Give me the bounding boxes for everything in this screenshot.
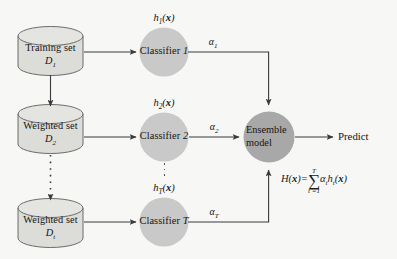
formula-rhs-term: αtht(x) (320, 173, 347, 184)
alpha-1-label: α1 (198, 37, 228, 50)
formula-lhs: H(x)= (281, 173, 308, 184)
dataset-label-weighted-set-2: Weighted set (17, 121, 84, 132)
dataset-symbol-training-set: D1 (18, 56, 83, 69)
classifier-t-label: Classifier T (124, 216, 204, 227)
ensemble-model-line2: model (246, 138, 296, 149)
alpha-t-label: αT (199, 207, 229, 220)
classifier-t-function-label: hT(x) (124, 182, 204, 197)
classifier-2-label: Classifier 2 (124, 131, 204, 142)
dataset-symbol-weighted-set-t: Dt (17, 228, 84, 241)
dataset-label-weighted-set-t: Weighted set (17, 215, 84, 226)
classifier-2-function-label: h2(x) (124, 97, 204, 112)
predict-output-label: Predict (338, 131, 369, 142)
classifier-1-label: Classifier 1 (124, 46, 204, 57)
ensemble-formula: H(x)=T∑t =1αtht(x) (281, 167, 347, 193)
dataset-symbol-weighted-set-2: D2 (17, 134, 84, 147)
dataset-label-training-set: Training set (18, 43, 83, 54)
diagram-canvas: Training set D1 Weighted set D2 Weighted… (0, 0, 397, 259)
summation-symbol: T∑t =1 (308, 168, 320, 194)
ensemble-model-line1: Ensemble (246, 125, 296, 136)
classifier-1-function-label: h1(x) (124, 12, 204, 27)
alpha-2-label: α2 (199, 122, 229, 135)
classifier-series-ellipsis (163, 163, 166, 176)
